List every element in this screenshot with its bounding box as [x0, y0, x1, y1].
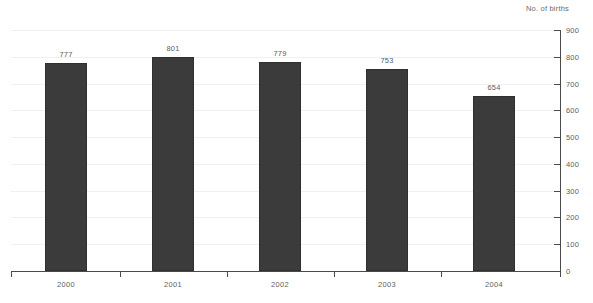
- y-axis-label-500: 500: [566, 133, 579, 142]
- gridline: [11, 30, 560, 31]
- bar-value-label-2004: 654: [464, 83, 524, 92]
- bar-value-label-2000: 777: [36, 50, 96, 59]
- bar-2004[interactable]: [473, 96, 515, 271]
- plot-area: [11, 30, 560, 271]
- y-axis-label-0: 0: [566, 267, 570, 276]
- x-axis-label-2000: 2000: [26, 280, 106, 289]
- y-axis-line: [560, 30, 561, 272]
- x-axis-tick-1: [120, 271, 121, 277]
- x-axis-tick-0: [11, 271, 12, 277]
- x-axis-tick-2: [227, 271, 228, 277]
- y-axis-label-800: 800: [566, 52, 579, 61]
- x-axis-tick-3: [334, 271, 335, 277]
- bar-value-label-2001: 801: [143, 44, 203, 53]
- y-axis-tick-300: [554, 191, 560, 192]
- y-axis-label-300: 300: [566, 186, 579, 195]
- x-axis-label-2001: 2001: [133, 280, 213, 289]
- y-axis-label-600: 600: [566, 106, 579, 115]
- y-axis-tick-100: [554, 244, 560, 245]
- bar-value-label-2002: 779: [250, 49, 310, 58]
- x-axis-label-2004: 2004: [454, 280, 534, 289]
- y-axis-tick-500: [554, 137, 560, 138]
- y-axis-tick-0: [554, 271, 560, 272]
- bar-2000[interactable]: [45, 63, 87, 271]
- x-axis-tick-5: [560, 271, 561, 277]
- y-axis-tick-700: [554, 84, 560, 85]
- x-axis-tick-4: [441, 271, 442, 277]
- bar-2002[interactable]: [259, 62, 301, 271]
- y-axis-label-900: 900: [566, 26, 579, 35]
- y-axis-label-100: 100: [566, 240, 579, 249]
- y-axis-label-400: 400: [566, 159, 579, 168]
- y-axis-tick-400: [554, 164, 560, 165]
- x-axis-label-2003: 2003: [347, 280, 427, 289]
- bar-2001[interactable]: [152, 57, 194, 271]
- y-axis-tick-200: [554, 217, 560, 218]
- x-axis-line: [11, 271, 560, 272]
- x-axis-label-2002: 2002: [240, 280, 320, 289]
- bar-2003[interactable]: [366, 69, 408, 271]
- y-axis-title: No. of births: [526, 4, 569, 13]
- bar-value-label-2003: 753: [357, 56, 417, 65]
- y-axis-tick-900: [554, 30, 560, 31]
- y-axis-tick-600: [554, 110, 560, 111]
- y-axis-label-700: 700: [566, 79, 579, 88]
- y-axis-label-200: 200: [566, 213, 579, 222]
- y-axis-tick-800: [554, 57, 560, 58]
- births-bar-chart: No. of births 20002001200220032004010020…: [0, 0, 593, 303]
